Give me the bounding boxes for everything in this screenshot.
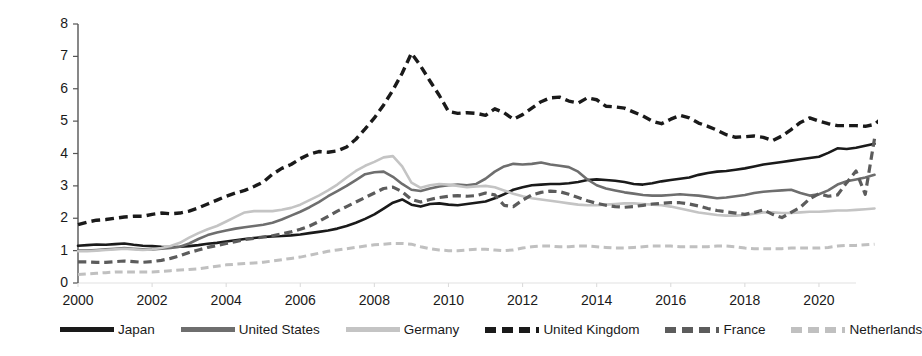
legend-entry-united-kingdom[interactable]: United Kingdom [485,322,639,337]
legend-swatch-icon [791,327,845,333]
legend-entry-germany[interactable]: Germany [346,322,460,337]
legend-label: Germany [404,322,460,337]
series-line-united-kingdom [78,53,878,225]
legend-entry-france[interactable]: France [665,322,765,337]
legend-swatch-icon [346,327,400,332]
legend-label: United Kingdom [543,322,639,337]
series-line-netherlands [78,244,875,275]
legend-swatch-icon [665,327,719,333]
legend-swatch-icon [181,327,235,332]
series-line-france [78,139,875,263]
legend-label: Netherlands [849,322,922,337]
series-line-japan [78,144,875,247]
legend-entry-united-states[interactable]: United States [181,322,320,337]
legend-label: France [723,322,765,337]
legend-label: Japan [118,322,155,337]
legend-swatch-icon [60,327,114,332]
legend-swatch-icon [485,327,539,333]
legend-label: United States [239,322,320,337]
series-line-united-states [78,163,875,251]
chart-legend: JapanUnited StatesGermanyUnited KingdomF… [60,322,860,337]
legend-entry-japan[interactable]: Japan [60,322,155,337]
legend-entry-netherlands[interactable]: Netherlands [791,322,922,337]
